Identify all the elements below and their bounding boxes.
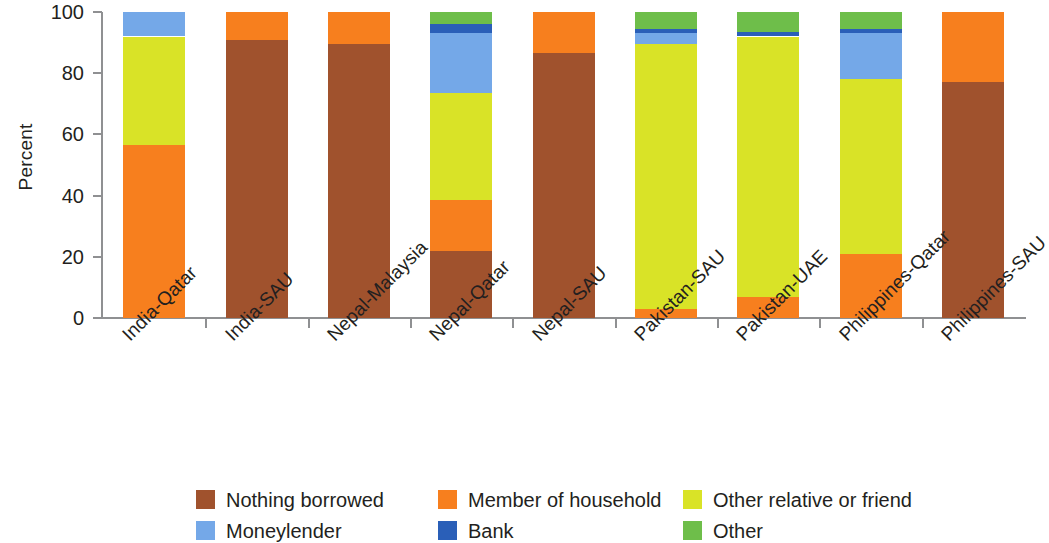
legend-item-other-relative-or-friend[interactable]: Other relative or friend	[683, 484, 912, 515]
bar-segment[interactable]	[123, 37, 185, 146]
bar-segment[interactable]	[430, 200, 492, 250]
bar-segment[interactable]	[840, 33, 902, 79]
x-axis-tick	[205, 319, 207, 328]
legend-swatch-icon	[438, 521, 457, 540]
legend-swatch-icon	[683, 521, 702, 540]
legend-item-member-of-household[interactable]: Member of household	[438, 484, 661, 515]
y-axis-tick-label: 100	[0, 1, 84, 24]
x-axis-tick	[717, 319, 719, 328]
bar-segment[interactable]	[123, 12, 185, 36]
y-axis-tick-label: 40	[0, 184, 84, 207]
x-axis-tick	[308, 319, 310, 328]
bar-segment[interactable]	[533, 12, 595, 53]
legend-item-nothing-borrowed[interactable]: Nothing borrowed	[196, 484, 384, 515]
legend-swatch-icon	[196, 490, 215, 509]
y-axis-tick	[93, 11, 102, 13]
bar-segment[interactable]	[942, 12, 1004, 82]
bar-segment[interactable]	[635, 44, 697, 309]
bar-segment[interactable]	[635, 29, 697, 34]
bar-segment[interactable]	[840, 79, 902, 253]
bar-segment[interactable]	[737, 32, 799, 37]
legend-item-bank[interactable]: Bank	[438, 515, 514, 543]
y-axis-tick	[93, 256, 102, 258]
bar-segment[interactable]	[635, 33, 697, 44]
bar-segment[interactable]	[430, 24, 492, 33]
y-axis-tick-label: 80	[0, 62, 84, 85]
x-axis-tick	[819, 319, 821, 328]
legend-swatch-icon	[196, 521, 215, 540]
legend-swatch-icon	[683, 490, 702, 509]
y-axis-tick	[93, 195, 102, 197]
chart-legend: Nothing borrowed Member of household Oth…	[196, 484, 1006, 543]
x-axis-tick	[512, 319, 514, 328]
bar-segment[interactable]	[840, 29, 902, 34]
bar-segment[interactable]	[737, 37, 799, 297]
bar-segment[interactable]	[635, 12, 697, 29]
y-axis-tick-label: 20	[0, 245, 84, 268]
y-axis-tick	[93, 72, 102, 74]
bar-segment[interactable]	[226, 12, 288, 40]
legend-item-moneylender[interactable]: Moneylender	[196, 515, 342, 543]
x-axis-tick	[410, 319, 412, 328]
plot-area	[103, 12, 1024, 318]
x-axis-tick	[922, 319, 924, 328]
bar-segment[interactable]	[430, 12, 492, 24]
legend-row-1: Nothing borrowed Member of household Oth…	[196, 484, 1006, 515]
y-axis-tick	[93, 133, 102, 135]
legend-label: Other	[713, 521, 763, 541]
bar-segment[interactable]	[840, 12, 902, 29]
x-axis-tick	[615, 319, 617, 328]
y-axis-tick-label: 60	[0, 123, 84, 146]
bar-segment[interactable]	[430, 33, 492, 93]
bar-segment[interactable]	[430, 93, 492, 200]
bar-segment[interactable]	[328, 12, 390, 44]
legend-label: Bank	[468, 521, 514, 541]
legend-swatch-icon	[438, 490, 457, 509]
legend-row-2: Moneylender Bank Other	[196, 515, 1006, 543]
legend-label: Other relative or friend	[713, 490, 912, 510]
bar-segment[interactable]	[737, 12, 799, 32]
legend-label: Member of household	[468, 490, 661, 510]
legend-label: Nothing borrowed	[226, 490, 384, 510]
y-axis-tick-label: 0	[0, 307, 84, 330]
legend-item-other[interactable]: Other	[683, 515, 763, 543]
legend-label: Moneylender	[226, 521, 342, 541]
